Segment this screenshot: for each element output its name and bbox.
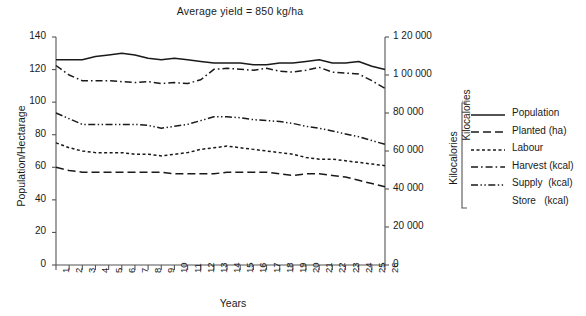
x-axis-tick-22: 22 bbox=[336, 259, 347, 273]
x-axis-tick-25: 25 bbox=[376, 259, 387, 273]
x-axis-title: Years bbox=[178, 297, 288, 309]
legend-item-label: Store (kcal) bbox=[512, 195, 569, 206]
y-axis-left-tick-0: 0 bbox=[12, 258, 46, 269]
x-axis-tick-10: 10 bbox=[178, 259, 189, 273]
legend-item-supply-kcal[interactable]: Supply (kcal) bbox=[470, 174, 586, 192]
legend-line-sample bbox=[470, 159, 506, 171]
y-axis-left-tick-140: 140 bbox=[12, 30, 46, 41]
chart-figure: Average yield = 850 kg/ha Population/Hec… bbox=[0, 0, 586, 316]
data-series-group bbox=[56, 53, 385, 187]
x-axis-tick-17: 17 bbox=[271, 259, 282, 273]
x-axis-tick-18: 18 bbox=[284, 259, 295, 273]
legend-item-label: Supply (kcal) bbox=[512, 177, 573, 188]
series-line-planted-ha bbox=[56, 167, 385, 187]
y-axis-left-tick-60: 60 bbox=[12, 160, 46, 171]
x-axis-tick-3: 3 bbox=[86, 259, 97, 273]
x-axis-tick-1: 1 bbox=[60, 259, 71, 273]
legend-item-label: Harvest (kcal) bbox=[512, 160, 574, 171]
legend: PopulationPlanted (ha)LabourHarvest (kca… bbox=[470, 104, 586, 209]
x-axis-tick-7: 7 bbox=[139, 259, 150, 273]
legend-item-planted-ha[interactable]: Planted (ha) bbox=[470, 122, 586, 140]
series-line-labour bbox=[56, 143, 385, 166]
x-axis-tick-15: 15 bbox=[244, 259, 255, 273]
x-axis-tick-16: 16 bbox=[257, 259, 268, 273]
legend-line-sample bbox=[470, 124, 506, 136]
x-axis-tick-4: 4 bbox=[99, 259, 110, 273]
x-axis-tick-26: 26 bbox=[389, 259, 400, 273]
y-axis-right-tick-120000: 1 20 000 bbox=[393, 30, 463, 41]
x-axis-tick-14: 14 bbox=[231, 259, 242, 273]
x-axis-tick-5: 5 bbox=[113, 259, 124, 273]
legend-item-label: Labour bbox=[512, 142, 543, 153]
y-axis-right-tick-0: 0 bbox=[393, 258, 463, 269]
y-axis-right-tick-100000: 1 00 000 bbox=[393, 68, 463, 79]
x-axis-tick-8: 8 bbox=[152, 259, 163, 273]
y-axis-left-tick-40: 40 bbox=[12, 193, 46, 204]
y-axis-right-title: Kilocalories bbox=[447, 103, 459, 213]
x-axis-tick-13: 13 bbox=[218, 259, 229, 273]
series-line-population bbox=[56, 53, 385, 69]
x-axis-tick-6: 6 bbox=[126, 259, 137, 273]
series-line-harvest-kcal bbox=[56, 66, 385, 89]
x-axis-tick-21: 21 bbox=[323, 259, 334, 273]
y-axis-right-tick-80000: 80 000 bbox=[393, 106, 463, 117]
y-axis-right-tick-60000: 60 000 bbox=[393, 144, 463, 155]
x-axis-tick-24: 24 bbox=[363, 259, 374, 273]
y-axis-right-tick-40000: 40 000 bbox=[393, 182, 463, 193]
x-axis-tick-20: 20 bbox=[310, 259, 321, 273]
legend-line-sample bbox=[470, 107, 506, 119]
legend-item-label: Planted (ha) bbox=[512, 125, 566, 136]
x-axis-tick-23: 23 bbox=[350, 259, 361, 273]
legend-line-sample bbox=[470, 194, 506, 206]
series-line-supply-kcal bbox=[56, 113, 385, 144]
legend-line-sample bbox=[470, 177, 506, 189]
x-axis-tick-12: 12 bbox=[205, 259, 216, 273]
y-axis-left-tick-80: 80 bbox=[12, 128, 46, 139]
x-axis-tick-11: 11 bbox=[192, 259, 203, 273]
legend-item-labour[interactable]: Labour bbox=[470, 139, 586, 157]
legend-item-label: Population bbox=[512, 107, 559, 118]
legend-item-harvest-kcal[interactable]: Harvest (kcal) bbox=[470, 157, 586, 175]
x-axis-tick-9: 9 bbox=[165, 259, 176, 273]
legend-item-store-kcal[interactable]: Store (kcal) bbox=[470, 192, 586, 210]
y-axis-right-tick-20000: 20 000 bbox=[393, 220, 463, 231]
legend-item-population[interactable]: Population bbox=[470, 104, 586, 122]
x-axis-tick-2: 2 bbox=[73, 259, 84, 273]
y-axis-left-tick-120: 120 bbox=[12, 63, 46, 74]
x-axis-tick-19: 19 bbox=[297, 259, 308, 273]
legend-line-sample bbox=[470, 142, 506, 154]
y-axis-left-tick-20: 20 bbox=[12, 225, 46, 236]
y-axis-left-tick-100: 100 bbox=[12, 95, 46, 106]
